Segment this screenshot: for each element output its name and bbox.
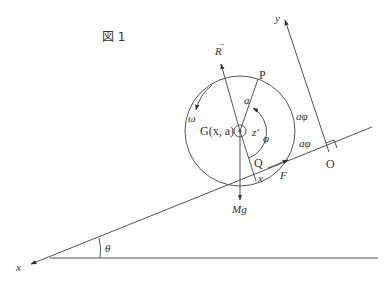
gravity-label: Mg xyxy=(231,203,247,215)
omega-label: ω xyxy=(188,112,196,124)
origin-label: O xyxy=(326,157,335,171)
reaction-force-arrow xyxy=(221,64,240,131)
arc-length-ground-label: aφ xyxy=(299,137,311,149)
point-q-label: Q xyxy=(254,156,263,170)
physics-diagram: 図 1 x θ y O G(x, a) R → P a φ z′ ω Mg Q … xyxy=(0,0,391,288)
z-prime-label: z′ xyxy=(251,126,259,138)
omega-arc xyxy=(196,85,212,110)
radius-label: a xyxy=(244,94,250,106)
y-axis-label: y xyxy=(274,12,280,24)
arc-length-wheel-label: aφ xyxy=(296,110,308,122)
vector-arrow-r: → xyxy=(217,39,225,48)
center-label: G(x, a) xyxy=(200,124,234,138)
incline-x-axis xyxy=(31,127,372,264)
friction-arrow xyxy=(268,160,288,168)
theta-label: θ xyxy=(105,242,111,254)
contact-x-label: x xyxy=(257,172,263,184)
x-axis-label: x xyxy=(15,261,21,273)
phi-label: φ xyxy=(263,132,269,144)
friction-label: F xyxy=(279,169,287,181)
y-axis xyxy=(285,20,329,152)
figure-caption: 図 1 xyxy=(102,30,125,44)
theta-arc xyxy=(99,238,101,258)
point-p-label: P xyxy=(259,68,266,82)
